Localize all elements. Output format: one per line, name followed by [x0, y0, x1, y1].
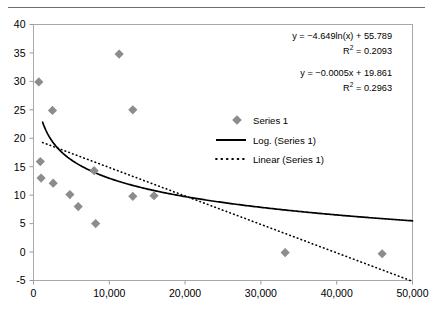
x-axis-tick-marks	[34, 281, 413, 285]
linear-equation-formula: y = −0.0005x + 19.861	[300, 68, 392, 78]
y-tick-label: 35	[14, 47, 26, 59]
y-tick-label: -5	[16, 274, 25, 286]
header-rule	[8, 7, 425, 8]
y-tick-label: 20	[14, 132, 26, 144]
y-tick-label: 25	[14, 104, 26, 116]
x-tick-label: 30,000	[245, 287, 277, 299]
y-tick-label: 40	[14, 18, 26, 30]
y-tick-label: 5	[20, 217, 26, 229]
y-tick-label: 0	[20, 246, 26, 258]
legend-label: Log. (Series 1)	[253, 135, 316, 146]
x-tick-label: 40,000	[321, 287, 353, 299]
chart-figure: -50510152025303540 010,00020,00030,00040…	[0, 0, 433, 314]
y-tick-label: 15	[14, 161, 26, 173]
y-axis-tick-marks	[30, 25, 34, 281]
x-axis-tick-labels: 010,00020,00030,00040,00050,000	[31, 287, 429, 299]
scatter-chart: -50510152025303540 010,00020,00030,00040…	[0, 0, 433, 314]
plot-area-background	[34, 25, 413, 281]
y-tick-label: 10	[14, 189, 26, 201]
log-equation-formula: y = −4.649ln(x) + 55.789	[292, 31, 392, 41]
y-axis-tick-labels: -50510152025303540	[14, 18, 26, 286]
x-tick-label: 0	[31, 287, 37, 299]
legend-label: Series 1	[253, 115, 288, 126]
x-tick-label: 10,000	[93, 287, 125, 299]
legend-label: Linear (Series 1)	[253, 154, 324, 165]
y-tick-label: 30	[14, 75, 26, 87]
x-tick-label: 50,000	[396, 287, 428, 299]
x-tick-label: 20,000	[169, 287, 201, 299]
